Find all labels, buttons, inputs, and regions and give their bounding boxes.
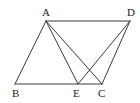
segment-de <box>78 21 130 84</box>
parallelogram-diagram: A D B E C <box>0 0 140 103</box>
vertex-label-b: B <box>12 87 19 99</box>
vertex-label-e: E <box>73 87 80 99</box>
segment-ab <box>15 21 46 84</box>
segments-group <box>15 21 130 84</box>
segment-ac <box>46 21 102 84</box>
segment-cd <box>102 21 130 84</box>
segment-ae <box>46 21 78 84</box>
vertex-label-c: C <box>98 87 105 99</box>
vertex-label-d: D <box>127 6 135 18</box>
vertex-label-a: A <box>42 6 50 18</box>
